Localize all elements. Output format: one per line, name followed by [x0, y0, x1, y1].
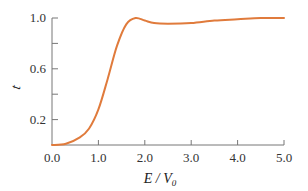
x-axis: 0.01.02.03.04.05.0 [44, 140, 292, 165]
x-tick-label: 5.0 [276, 150, 292, 165]
y-tick-label: 0.6 [30, 61, 47, 76]
y-axis: 0.20.61.0 [30, 10, 58, 145]
y-tick-label: 1.0 [30, 10, 46, 25]
x-tick-label: 0.0 [44, 150, 60, 165]
x-tick-label: 4.0 [229, 150, 245, 165]
transmission-curve [52, 18, 284, 145]
transmission-chart: 0.20.61.0 0.01.02.03.04.05.0 t E / V0 [0, 0, 308, 191]
y-axis-label: t [8, 83, 24, 91]
x-axis-label: E / V0 [143, 171, 177, 188]
x-tick-label: 2.0 [137, 150, 153, 165]
svg-text:E / V0: E / V0 [143, 171, 177, 188]
y-tick-label: 0.2 [30, 112, 46, 127]
x-tick-label: 3.0 [183, 150, 199, 165]
x-tick-label: 1.0 [90, 150, 106, 165]
